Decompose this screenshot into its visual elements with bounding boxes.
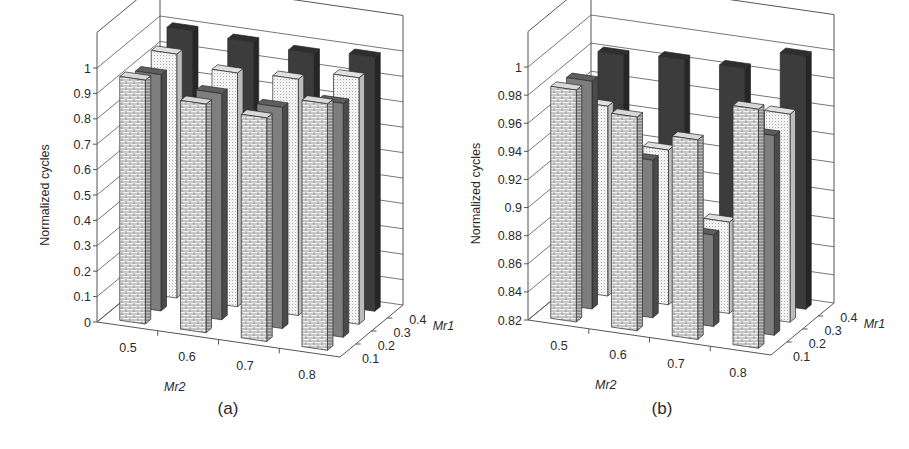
y-axis-title: Normalized cycles (38, 144, 52, 245)
depth-tick-label: 0.1 (362, 352, 379, 366)
chart-b: 0.820.840.860.880.90.920.940.960.9810.50… (469, 0, 885, 418)
chart-a: 00.10.20.30.40.50.60.70.80.910.50.60.70.… (38, 0, 454, 418)
bar-brick (180, 96, 211, 333)
y-tick-label: 0.86 (498, 257, 522, 271)
bar-side (222, 89, 228, 320)
depth-tick-label: 0.2 (809, 337, 826, 351)
y-tick-label: 0.98 (498, 89, 522, 103)
bar-side (759, 105, 765, 348)
figure-caption: (a) (218, 399, 239, 418)
bar-brick (241, 110, 272, 342)
bar-side (592, 77, 598, 309)
y-tick-label: 0.1 (74, 290, 91, 304)
y-tick-label: 0.82 (498, 314, 522, 328)
bar-brick (302, 96, 333, 351)
bar-side (206, 100, 212, 333)
bar-side (359, 73, 365, 324)
bar-front (180, 100, 206, 332)
x-axis-title: Mr2 (164, 380, 186, 394)
x-axis-title: Mr2 (595, 378, 617, 392)
bar-front (733, 106, 759, 349)
bar-side (806, 52, 812, 310)
y-tick-label: 0.2 (74, 265, 91, 279)
bar-brick (672, 132, 703, 340)
y-tick-label: 0.92 (498, 173, 522, 187)
y-tick-label: 0.96 (498, 117, 522, 131)
bar-side (774, 131, 780, 335)
bar-side (576, 86, 582, 322)
bar-side (161, 70, 167, 311)
bar-brick (120, 72, 151, 324)
left-wall-top (97, 0, 160, 32)
depth-tick-label: 0.3 (824, 324, 841, 338)
left-wall-top (528, 0, 591, 32)
depth-tick-label: 0.3 (393, 326, 410, 340)
x-tick-label: 0.7 (667, 357, 684, 371)
back-wall-top (591, 0, 834, 15)
bar-side (343, 99, 349, 337)
y-tick-label: 0.6 (74, 163, 91, 177)
depth-tick-label: 0.4 (409, 313, 426, 327)
bar-side (637, 113, 643, 331)
y-tick-label: 0.84 (498, 285, 522, 299)
y-tick-label: 0.4 (74, 214, 91, 228)
bar-brick (551, 82, 582, 322)
x-tick-label: 0.7 (236, 359, 253, 373)
y-tick-label: 1 (515, 61, 522, 75)
y-tick-label: 0.8 (74, 112, 91, 126)
bar-front (302, 100, 328, 350)
y-tick-label: 0.94 (498, 145, 522, 159)
x-tick-label: 0.8 (729, 366, 746, 380)
x-tick-label: 0.6 (609, 348, 626, 362)
x-tick-label: 0.6 (178, 350, 195, 364)
y-tick-label: 1 (84, 62, 91, 76)
y-tick-label: 0.9 (505, 201, 522, 215)
depth-tick-label: 0.2 (378, 339, 395, 353)
bar-side (375, 53, 381, 312)
bar-front (672, 136, 698, 339)
y-tick-label: 0 (84, 316, 91, 330)
y-axis-title: Normalized cycles (469, 143, 483, 244)
bar-side (283, 103, 289, 329)
figure-canvas: 00.10.20.30.40.50.60.70.80.910.50.60.70.… (0, 0, 909, 449)
depth-axis-title: Mr1 (864, 317, 886, 331)
x-tick-label: 0.5 (550, 339, 567, 353)
x-tick-label: 0.5 (119, 341, 136, 355)
y-tick-label: 0.7 (74, 138, 91, 152)
bar-front (241, 114, 267, 341)
depth-axis-title: Mr1 (433, 319, 455, 333)
bar-front (120, 76, 146, 324)
y-tick-label: 0.9 (74, 87, 91, 101)
bar-side (145, 76, 151, 324)
bar-side (714, 231, 720, 327)
bar-front (611, 113, 637, 330)
x-tick-label: 0.8 (298, 368, 315, 382)
bar-side (653, 156, 659, 318)
bar-front (551, 86, 577, 322)
bar-side (698, 135, 704, 339)
figure-caption: (b) (652, 399, 673, 418)
bar-side (267, 113, 273, 341)
bar-side (328, 99, 334, 350)
bar-brick (611, 109, 642, 331)
depth-tick-label: 0.4 (840, 311, 857, 325)
y-tick-label: 0.5 (74, 189, 91, 203)
y-tick-label: 0.88 (498, 229, 522, 243)
depth-tick-label: 0.1 (793, 350, 810, 364)
y-tick-label: 0.3 (74, 239, 91, 253)
bar-side (790, 110, 796, 323)
bar-brick (733, 101, 764, 348)
back-wall-top (160, 0, 403, 15)
